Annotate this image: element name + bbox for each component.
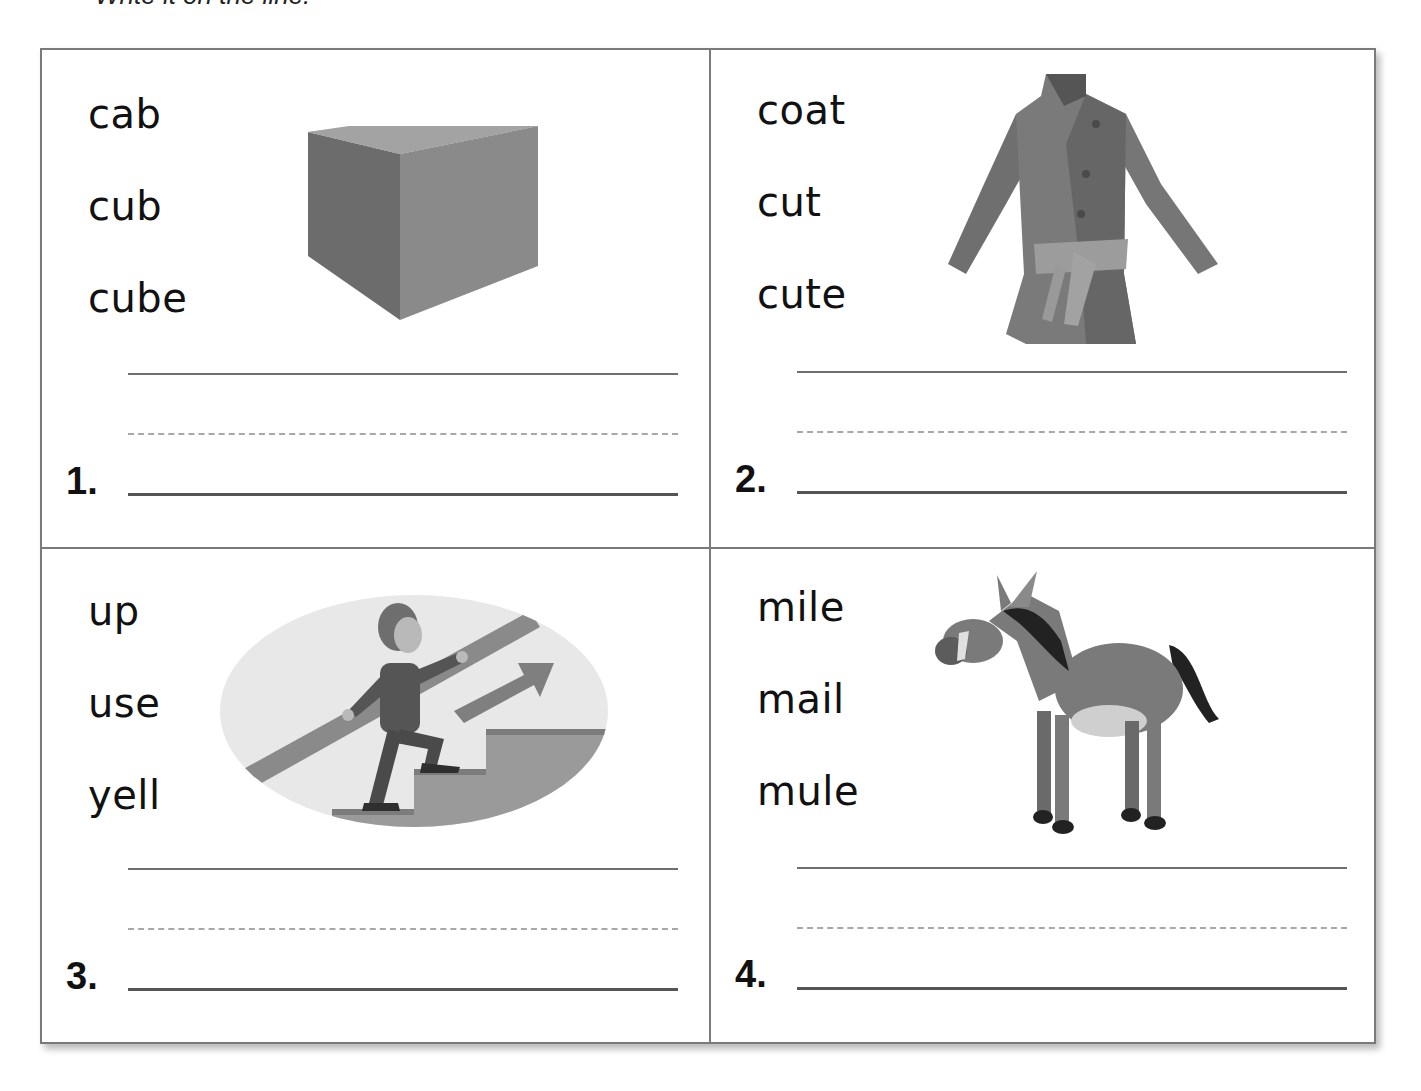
exercise-cell-3: up use yell <box>42 549 709 1046</box>
word-option: cut <box>757 182 822 222</box>
word-option: coat <box>757 90 846 130</box>
answer-line[interactable] <box>128 493 678 496</box>
writing-line-top <box>128 373 678 375</box>
word-option: cub <box>88 186 162 226</box>
worksheet-grid: cab cub cube 1. coat cut cute <box>40 48 1376 1044</box>
word-option: mile <box>757 587 845 627</box>
word-option: yell <box>88 775 161 815</box>
cube-picture <box>304 126 540 322</box>
writing-line-top <box>797 867 1347 869</box>
writing-line-top <box>797 371 1347 373</box>
writing-line-middle <box>797 431 1347 433</box>
exercise-number: 4. <box>735 955 767 993</box>
mule-picture <box>929 571 1229 843</box>
exercise-number: 1. <box>66 462 98 500</box>
exercise-cell-4: mile mail mule <box>711 549 1378 1046</box>
writing-line-middle <box>128 433 678 435</box>
writing-line-middle <box>797 927 1347 929</box>
word-option: mule <box>757 771 859 811</box>
instruction-text: Write it on the line. <box>95 0 310 11</box>
word-option: cab <box>88 94 161 134</box>
word-option: cube <box>88 278 187 318</box>
word-option: cute <box>757 274 847 314</box>
writing-line-top <box>128 868 678 870</box>
writing-line-middle <box>128 928 678 930</box>
exercise-cell-1: cab cub cube 1. <box>42 50 709 547</box>
coat-picture <box>946 74 1221 349</box>
exercise-cell-2: coat cut cute 2. <box>711 50 1378 547</box>
word-option: up <box>88 591 140 631</box>
answer-line[interactable] <box>128 988 678 991</box>
exercise-number: 3. <box>66 957 98 995</box>
word-option: use <box>88 683 160 723</box>
answer-line[interactable] <box>797 491 1347 494</box>
word-option: mail <box>757 679 845 719</box>
exercise-number: 2. <box>735 460 767 498</box>
boy-climbing-stairs-picture <box>218 593 610 829</box>
answer-line[interactable] <box>797 987 1347 990</box>
